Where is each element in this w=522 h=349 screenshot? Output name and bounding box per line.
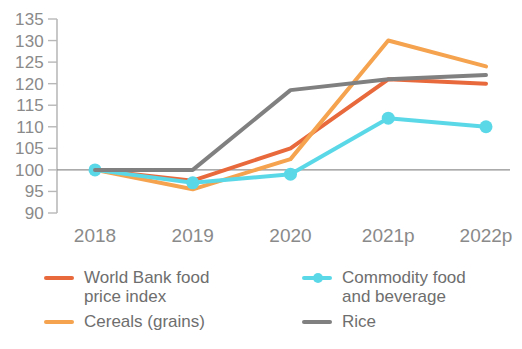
legend-swatch-line-icon bbox=[44, 268, 74, 288]
series-marker bbox=[480, 120, 493, 133]
legend-swatch-line-icon bbox=[302, 312, 332, 332]
series-marker bbox=[382, 112, 395, 125]
food-price-index-line-chart: 9095100105110115120125130135 20182019202… bbox=[0, 0, 522, 349]
chart-legend: World Bank food price index Commodity fo… bbox=[44, 268, 522, 349]
x-axis-tick-label: 2019 bbox=[172, 226, 214, 245]
axis-group bbox=[48, 19, 57, 213]
legend-item-commodity-food-and-beverage: Commodity food and beverage bbox=[302, 268, 466, 306]
data-series-group bbox=[89, 41, 493, 190]
legend-item-label: Rice bbox=[342, 312, 376, 331]
legend-item-label: World Bank food price index bbox=[84, 268, 209, 306]
legend-swatch-line-icon bbox=[44, 312, 74, 332]
x-axis-tick-label: 2018 bbox=[74, 226, 116, 245]
legend-item-cereals-grains: Cereals (grains) bbox=[44, 312, 205, 332]
series-marker bbox=[284, 168, 297, 181]
x-axis-tick-labels: 2018201920202021p2022p bbox=[0, 226, 522, 260]
x-axis-tick-label: 2022p bbox=[460, 226, 513, 245]
series-line bbox=[95, 79, 486, 180]
series-line bbox=[95, 41, 486, 190]
legend-swatch-line-marker-icon bbox=[302, 268, 332, 288]
series-marker bbox=[186, 176, 199, 189]
x-axis-tick-label: 2021p bbox=[362, 226, 415, 245]
legend-item-label: Commodity food and beverage bbox=[342, 268, 466, 306]
legend-item-label: Cereals (grains) bbox=[84, 312, 205, 331]
legend-item-rice: Rice bbox=[302, 312, 376, 332]
x-axis-tick-label: 2020 bbox=[269, 226, 311, 245]
legend-item-world-bank-food-price-index: World Bank food price index bbox=[44, 268, 209, 306]
